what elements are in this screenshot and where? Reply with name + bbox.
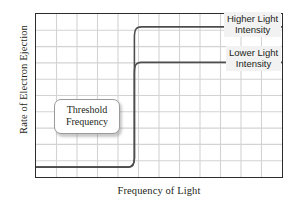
plot-area [35, 13, 283, 178]
photoelectric-effect-chart: Rate of Electron Ejection [0, 0, 299, 204]
legend-lower-line2: Intensity [229, 58, 278, 69]
legend-higher-light-intensity: Higher Light Intensity [224, 12, 281, 37]
legend-higher-line1: Higher Light [227, 13, 278, 24]
legend-higher-line2: Intensity [227, 24, 278, 35]
threshold-callout-line2: Frequency [58, 116, 116, 128]
threshold-callout-line1: Threshold [58, 104, 116, 116]
gridlines-group [36, 14, 282, 177]
plot-canvas [36, 14, 282, 177]
legend-lower-light-intensity: Lower Light Intensity [226, 46, 281, 71]
legend-lower-line1: Lower Light [229, 47, 278, 58]
y-axis-title: Rate of Electron Ejection [18, 0, 29, 160]
threshold-frequency-callout: Threshold Frequency [54, 99, 120, 134]
x-axis-title: Frequency of Light [35, 185, 283, 196]
